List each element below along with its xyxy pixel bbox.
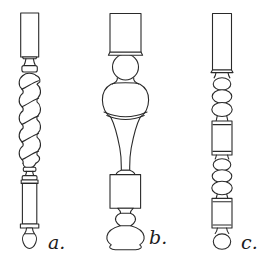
a-step [22,57,37,59]
c-bottom-block [212,198,232,228]
c-upper-beads [213,78,231,90]
b-foot-lip [116,170,135,174]
figure-label-c: c. [241,231,258,254]
figure-label-b: b. [149,226,167,249]
figure-label-a: a. [48,231,65,254]
c-top-block [213,14,232,71]
a-bottom-collar [23,167,36,171]
b-bottom-block [110,175,141,209]
c-top-lip [211,70,233,73]
b-ball [113,54,139,80]
c-foot [213,234,230,249]
a-top-block [21,13,39,57]
c-lower-beads [213,159,231,171]
b-top-block [110,14,141,53]
a-top-collar [22,66,37,72]
b-vase-bulb [102,83,148,170]
b-foot [107,208,144,250]
baluster-b-drawing [102,14,148,250]
baluster-a-drawing [19,13,40,249]
balusters-figure: a. b. c. [0,0,268,266]
balusters-drawing [0,0,268,266]
baluster-c-drawing [211,14,233,250]
c-middle-block [212,121,232,155]
a-foot [23,228,37,249]
